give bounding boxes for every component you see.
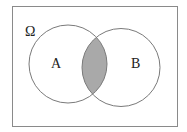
set-a-label: A bbox=[51, 56, 62, 71]
venn-diagram: Ω A B bbox=[0, 0, 187, 132]
set-b-label: B bbox=[131, 56, 140, 71]
universe-label: Ω bbox=[25, 24, 35, 39]
